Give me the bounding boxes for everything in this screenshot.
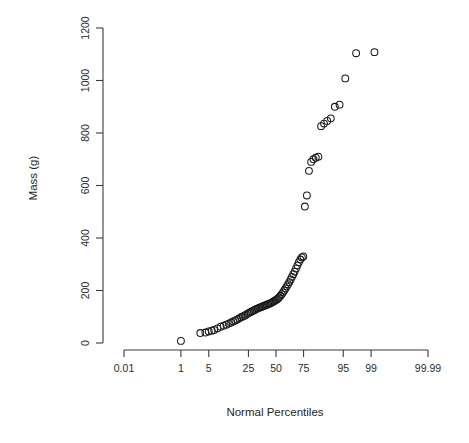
x-tick-label: 95 bbox=[337, 362, 349, 374]
x-tick-label: 0.01 bbox=[114, 362, 135, 374]
chart-figure: 020040060080010001200 0.0115255075959999… bbox=[0, 0, 469, 443]
x-axis-ticks bbox=[124, 350, 428, 357]
y-tick-label: 800 bbox=[79, 124, 91, 142]
data-point bbox=[306, 167, 313, 174]
y-tick-label: 1200 bbox=[79, 16, 91, 40]
x-tick-label: 5 bbox=[206, 362, 212, 374]
data-point bbox=[371, 49, 378, 56]
data-point bbox=[178, 338, 185, 345]
y-tick-label: 1000 bbox=[79, 69, 91, 93]
x-tick-label: 25 bbox=[243, 362, 255, 374]
x-tick-label: 99.99 bbox=[415, 362, 441, 374]
y-axis-ticks bbox=[96, 28, 103, 343]
y-axis-tick-labels: 020040060080010001200 bbox=[79, 16, 91, 346]
y-tick-label: 400 bbox=[79, 229, 91, 247]
data-point bbox=[342, 75, 349, 82]
data-point bbox=[303, 192, 310, 199]
y-tick-label: 200 bbox=[79, 282, 91, 300]
y-axis-title: Mass (g) bbox=[27, 155, 39, 200]
x-axis-tick-labels: 0.0115255075959999.99 bbox=[114, 362, 442, 374]
x-tick-label: 50 bbox=[270, 362, 282, 374]
y-tick-label: 600 bbox=[79, 177, 91, 195]
data-points bbox=[178, 49, 378, 345]
normal-probability-plot: 020040060080010001200 0.0115255075959999… bbox=[0, 0, 469, 443]
x-tick-label: 1 bbox=[178, 362, 184, 374]
data-point bbox=[301, 203, 308, 210]
x-tick-label: 75 bbox=[298, 362, 310, 374]
y-tick-label: 0 bbox=[79, 340, 91, 346]
data-point bbox=[353, 50, 360, 57]
x-axis-title: Normal Percentiles bbox=[226, 406, 323, 418]
x-tick-label: 99 bbox=[365, 362, 377, 374]
